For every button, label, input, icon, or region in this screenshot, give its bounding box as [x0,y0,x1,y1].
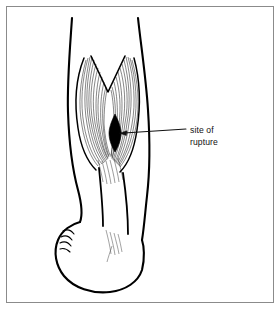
illustration-figure: site of rupture [0,0,280,309]
ankle-tendon-wisps [106,230,122,262]
rupture-label-line1: site of [190,125,214,135]
gastrocnemius-notch [91,56,125,92]
anatomy-illustration: site of rupture [0,0,280,309]
rupture-label-line2: rupture [190,137,218,147]
rupture-leader-line [120,129,187,136]
achilles-tendon [99,168,128,234]
foot-outline [56,222,144,292]
lower-muscle-wisps [98,158,123,184]
gastrocnemius-fibers-left [80,57,110,166]
